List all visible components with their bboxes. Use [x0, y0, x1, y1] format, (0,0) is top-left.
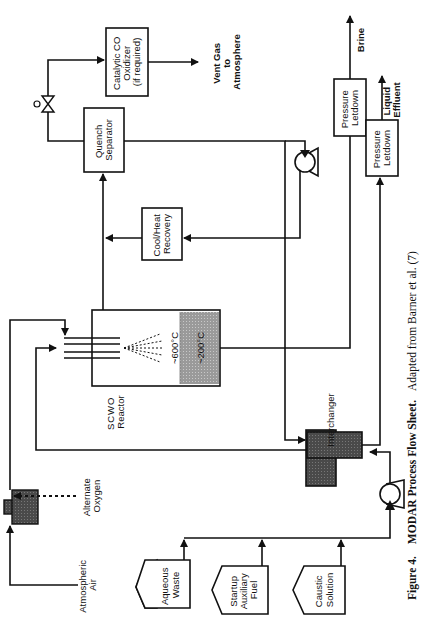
aqueous-waste-label-2: Waste	[170, 572, 181, 599]
svg-text:Cool/Heat Recovery: Cool/Heat Recovery	[151, 212, 172, 257]
liquid-effluent-label-2: Effluent	[391, 81, 402, 117]
atmospheric-air-label-2: Air	[87, 579, 98, 591]
alternate-oxygen-label-2: Oxygen	[91, 480, 102, 513]
quench-label-2: Separator	[103, 119, 114, 161]
pressure-letdown-liquid: Pressure Letdown	[366, 120, 398, 176]
brine-label: Brine	[355, 28, 366, 52]
svg-text:Liquid Effluent: Liquid Effluent	[381, 81, 402, 117]
svg-text:Vent Gas to Atmosphere: Vent Gas to Atmosphere	[211, 34, 242, 89]
feed-aqueous-waste: Aqueous Waste	[136, 560, 190, 608]
reactor-top-temp: ~600°C	[169, 332, 180, 364]
oxidizer-label-3: (if required)	[131, 38, 142, 87]
quench-separator: Quench Separator	[84, 108, 124, 172]
interchanger-label: Interchanger	[325, 393, 336, 446]
letdown-liquid-label-2: Letdown	[381, 130, 392, 166]
reactor-bottom-temp: ~200°C	[195, 332, 206, 364]
svg-text:Alternate Oxygen: Alternate Oxygen	[81, 476, 102, 517]
vent-label-3: Atmosphere	[231, 34, 242, 89]
svg-text:Pressure Letdown: Pressure Letdown	[371, 128, 392, 169]
svg-text:SCWO Reactor: SCWO Reactor	[105, 394, 126, 430]
caustic-label-1: Caustic	[313, 575, 324, 607]
aqueous-waste-label-1: Aqueous	[159, 567, 170, 605]
svg-text:Caustic Solution: Caustic Solution	[313, 573, 335, 607]
cool-heat-label-2: Recovery	[161, 214, 172, 254]
caustic-label-2: Solution	[324, 573, 335, 607]
control-valve	[34, 96, 54, 112]
caption-prefix: Figure 4.	[406, 556, 419, 600]
startup-fuel-label-3: Fuel	[248, 581, 259, 599]
svg-text:Atmospheric Air: Atmospheric Air	[77, 557, 98, 612]
figure-caption: Figure 4. MODAR Process Flow Sheet. Adap…	[402, 251, 419, 600]
feed-startup-fuel: Startup Auxiliary Fuel	[212, 566, 268, 614]
cool-heat-recovery: Cool/Heat Recovery	[142, 208, 182, 260]
recycle-pump	[295, 148, 318, 176]
caption-title: MODAR Process Flow Sheet.	[406, 400, 418, 544]
catalytic-co-oxidizer: Catalytic CO Oxidizer (if required)	[106, 28, 148, 96]
feed-caustic-solution: Caustic Solution	[293, 566, 345, 614]
caption-rest: Adapted from Barner et al. (7)	[406, 251, 419, 391]
feed-pump	[380, 480, 404, 510]
svg-text:Pressure Letdown: Pressure Letdown	[339, 88, 360, 129]
letdown-brine-label-2: Letdown	[349, 90, 360, 126]
reactor-label-2: Reactor	[115, 395, 126, 428]
process-flow-diagram: Aqueous Waste Startup Auxiliary Fuel Cau…	[0, 0, 425, 619]
svg-text:Quench Separator: Quench Separator	[93, 119, 114, 161]
